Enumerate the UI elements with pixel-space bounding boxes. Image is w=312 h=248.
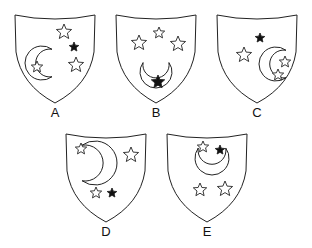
shield-e (167, 134, 247, 222)
shield-label-c: C (247, 106, 267, 120)
shield-label-a: A (45, 106, 65, 120)
shield-label-d: D (96, 225, 116, 239)
shield-outline (167, 134, 247, 222)
shield-label-e: E (197, 225, 217, 239)
shield-label-b: B (146, 106, 166, 120)
shield-b (116, 15, 196, 103)
shield-a (15, 15, 95, 103)
shield-d (66, 134, 146, 222)
shield-outline (116, 15, 196, 103)
shield-c (217, 15, 297, 103)
shield-figure (0, 0, 312, 248)
